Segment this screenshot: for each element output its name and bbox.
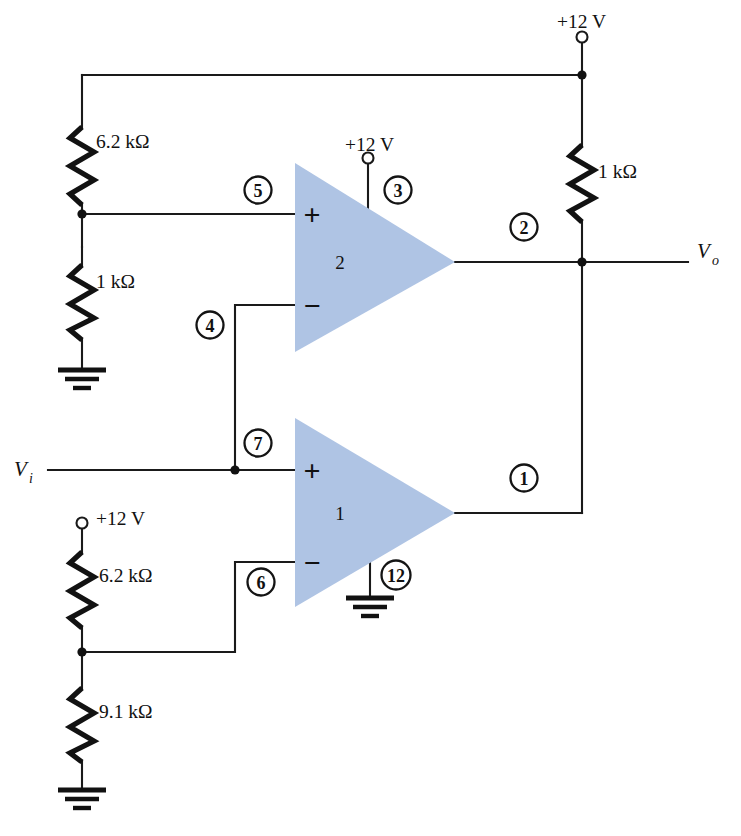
- op-amp-2[interactable]: + − 2: [295, 163, 455, 352]
- junction-supply-top: [577, 70, 586, 79]
- output-signal-label: V o: [697, 239, 719, 268]
- op-amp-1-label: 1: [335, 503, 345, 524]
- pin-marker-12[interactable]: 12: [382, 561, 411, 590]
- schematic-canvas: + − 2 + − 1: [0, 0, 741, 836]
- resistor-label-6k2-top-left: 6.2 kΩ: [96, 131, 150, 152]
- pin-label-6: 6: [257, 573, 266, 593]
- pin-label-3: 3: [394, 181, 403, 201]
- circuit-diagram: + − 2 + − 1: [0, 0, 741, 836]
- op-amp-1-triangle: [295, 418, 455, 607]
- resistor-6k2-top-left-symbol: [70, 127, 94, 205]
- resistor-1k-mid-left-symbol: [70, 265, 94, 340]
- pin-marker-1[interactable]: 1: [511, 465, 538, 492]
- op-amp-2-minus-sign: −: [303, 289, 320, 322]
- resistor-label-6k2-bottom: 6.2 kΩ: [99, 565, 153, 586]
- pin-marker-5[interactable]: 5: [245, 177, 272, 204]
- pin-label-2: 2: [520, 218, 529, 238]
- resistor-label-1k-mid-left: 1 kΩ: [96, 271, 135, 292]
- input-signal-subscript: i: [29, 471, 33, 486]
- op-amp-1-plus-sign: +: [303, 454, 320, 487]
- junction-divider-left: [77, 209, 86, 218]
- pin-marker-6[interactable]: 6: [248, 569, 275, 596]
- op-amp-2-label: 2: [335, 252, 345, 273]
- supply-label-amp2-pin3: +12 V: [345, 134, 394, 155]
- resistor-9k1-bottom-symbol: [70, 688, 94, 762]
- supply-label-top-right: +12 V: [557, 11, 606, 32]
- output-signal-v: V: [697, 239, 712, 263]
- pin-label-12: 12: [387, 566, 405, 586]
- resistor-label-1k-right: 1 kΩ: [598, 161, 637, 182]
- pin-label-1: 1: [520, 469, 529, 489]
- junction-vo: [577, 257, 586, 266]
- pin-marker-3[interactable]: 3: [385, 177, 412, 204]
- ground-symbol-amp1: [346, 598, 394, 616]
- resistor-label-9k1-bottom: 9.1 kΩ: [99, 701, 153, 722]
- supply-terminal-bottom-left[interactable]: [77, 518, 88, 529]
- supply-terminal-top-right[interactable]: [577, 32, 588, 43]
- pin-marker-4[interactable]: 4: [197, 312, 224, 339]
- ground-group: [58, 370, 394, 808]
- op-amp-1-minus-sign: −: [303, 546, 320, 579]
- supply-label-bottom-left: +12 V: [96, 508, 145, 529]
- pin-label-7: 7: [254, 434, 263, 454]
- op-amp-2-triangle: [295, 163, 455, 352]
- pin-label-5: 5: [254, 181, 263, 201]
- op-amp-1[interactable]: + − 1: [295, 418, 455, 607]
- input-signal-label: V i: [14, 457, 33, 486]
- output-signal-subscript: o: [712, 253, 719, 268]
- resistor-6k2-bottom-symbol: [70, 552, 94, 628]
- ground-symbol-bottom: [58, 790, 106, 808]
- op-amp-2-plus-sign: +: [303, 198, 320, 231]
- pin-marker-7[interactable]: 7: [245, 430, 272, 457]
- pin-marker-2[interactable]: 2: [511, 214, 538, 241]
- ground-symbol-left: [58, 370, 106, 388]
- junction-divider-bottom: [77, 647, 86, 656]
- resistor-1k-right-symbol: [570, 145, 594, 222]
- junction-vi: [230, 465, 239, 474]
- pin-label-4: 4: [206, 316, 215, 336]
- input-signal-v: V: [14, 457, 29, 481]
